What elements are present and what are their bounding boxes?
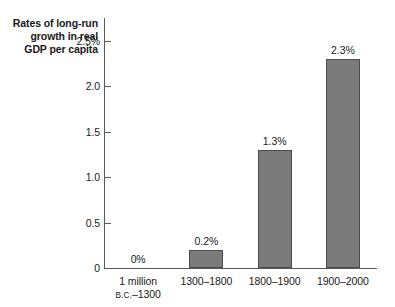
- bar: [258, 150, 292, 268]
- bar-group: 0.2%: [172, 18, 240, 268]
- x-axis-category-label: 1900–2000: [297, 275, 389, 288]
- y-axis-tick-label: 1.0: [42, 172, 100, 183]
- bar-group: 2.3%: [309, 18, 377, 268]
- bar-group: 1.3%: [241, 18, 309, 268]
- bar-chart-figure: Rates of long-run growth in real GDP per…: [0, 0, 395, 307]
- y-axis-tick: [105, 268, 111, 269]
- bar-value-label: 0%: [131, 254, 146, 265]
- bar: [326, 59, 360, 268]
- y-axis-tick-label: 2.0: [42, 81, 100, 92]
- y-axis-tick-label: 2.5%: [42, 36, 100, 47]
- bar-group: 0%: [104, 18, 172, 268]
- y-axis-tick-label: 1.5: [42, 127, 100, 138]
- bar-value-label: 2.3%: [331, 45, 355, 56]
- y-axis-tick-label: 0.5: [42, 218, 100, 229]
- bar-value-label: 1.3%: [263, 136, 287, 147]
- bar-value-label: 0.2%: [195, 236, 219, 247]
- y-axis-tick-label: 0: [42, 263, 100, 274]
- bar: [189, 250, 223, 268]
- plot-area: 0%0.2%1.3%2.3%: [104, 18, 377, 268]
- x-axis-line: [104, 268, 377, 269]
